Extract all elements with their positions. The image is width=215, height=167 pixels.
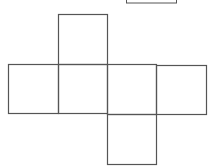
net-square-bottom (108, 115, 157, 165)
net-square-row-4 (157, 66, 207, 115)
net-square-row-1 (9, 65, 59, 114)
net-square-row-2 (59, 65, 108, 114)
net-square-row-3 (108, 65, 157, 115)
partial-box-top (127, 0, 177, 3)
net-square-top (59, 15, 108, 65)
cube-net-diagram (0, 0, 215, 167)
